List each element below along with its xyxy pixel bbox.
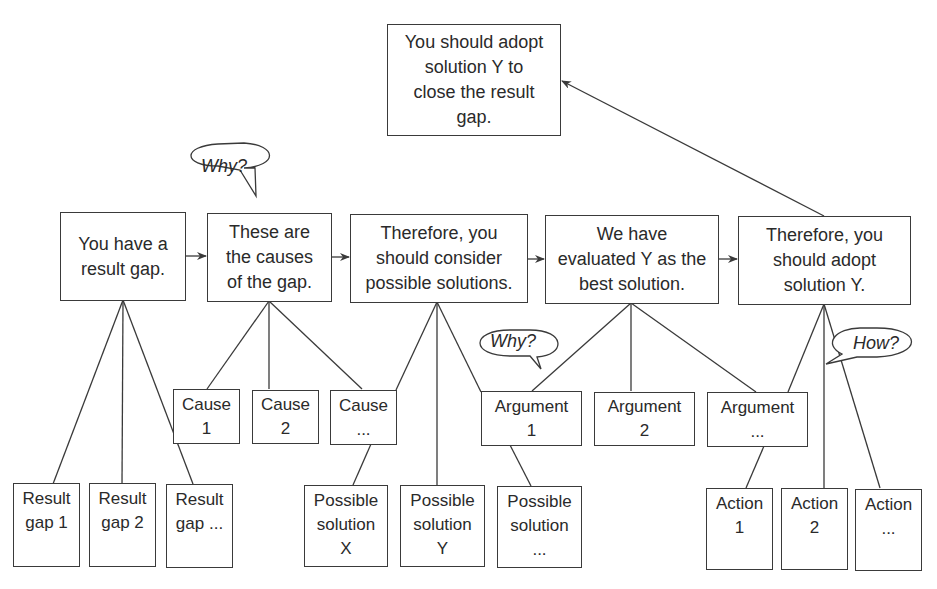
- cause-box-1: Cause 1: [173, 389, 240, 444]
- action-text: Action ...: [865, 493, 912, 541]
- main-box-result-gap: You have a result gap.: [60, 212, 186, 301]
- result-gap-text: Result gap 1: [22, 487, 70, 535]
- cause-text: Cause ...: [339, 394, 388, 442]
- action-box-2: Action 2: [781, 488, 848, 570]
- argument-text: Argument 1: [495, 395, 569, 443]
- action-box-more: Action ...: [855, 489, 922, 571]
- cause-box-2: Cause 2: [252, 390, 319, 444]
- main-box-consider-solutions: Therefore, you should consider possible …: [350, 214, 528, 303]
- main-box-causes: These are the causes of the gap.: [207, 213, 332, 302]
- possible-solution-text: Possible solution X: [314, 489, 378, 561]
- main-box-text: Therefore, you should consider possible …: [365, 221, 512, 296]
- result-gap-box-2: Result gap 2: [89, 483, 156, 567]
- result-gap-box-1: Result gap 1: [13, 483, 80, 567]
- argument-box-1: Argument 1: [481, 391, 582, 446]
- argument-text: Argument 2: [608, 395, 682, 443]
- possible-solution-text: Possible solution ...: [507, 490, 571, 562]
- result-gap-text: Result gap 2: [98, 487, 146, 535]
- possible-solution-box-more: Possible solution ...: [497, 486, 582, 568]
- argument-box-2: Argument 2: [594, 392, 695, 446]
- main-box-text: We have evaluated Y as the best solution…: [558, 222, 706, 297]
- possible-solution-box-y: Possible solution Y: [400, 485, 485, 567]
- result-gap-text: Result gap ...: [175, 488, 223, 536]
- main-box-adopt: Therefore, you should adopt solution Y.: [738, 216, 911, 305]
- conclusion-text: You should adopt solution Y to close the…: [405, 30, 543, 130]
- argument-box-more: Argument ...: [707, 392, 808, 447]
- action-text: Action 1: [716, 492, 763, 540]
- conclusion-box: You should adopt solution Y to close the…: [387, 24, 561, 136]
- why-bubble-causes: Why?: [199, 156, 249, 177]
- how-bubble-actions: How?: [851, 333, 901, 354]
- possible-solution-box-x: Possible solution X: [304, 485, 388, 567]
- main-box-text: You have a result gap.: [78, 232, 167, 282]
- possible-solution-text: Possible solution Y: [410, 489, 474, 561]
- main-box-evaluated: We have evaluated Y as the best solution…: [545, 215, 719, 304]
- action-text: Action 2: [791, 492, 838, 540]
- cause-box-more: Cause ...: [330, 390, 397, 445]
- action-box-1: Action 1: [706, 488, 773, 570]
- cause-text: Cause 2: [261, 393, 310, 441]
- main-box-text: Therefore, you should adopt solution Y.: [766, 223, 883, 298]
- argument-text: Argument ...: [721, 396, 795, 444]
- main-box-text: These are the causes of the gap.: [226, 220, 313, 295]
- why-bubble-arguments: Why?: [488, 331, 538, 352]
- result-gap-box-more: Result gap ...: [166, 484, 233, 568]
- cause-text: Cause 1: [182, 393, 231, 441]
